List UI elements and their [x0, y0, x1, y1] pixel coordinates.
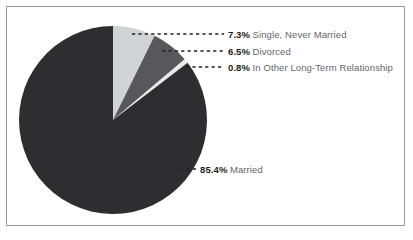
pie-label-in-other-long-term-relationship: 0.8%In Other Long-Term Relationship — [228, 62, 393, 73]
pie-label-text: Single, Never Married — [253, 29, 347, 40]
pie-chart-plot-area — [18, 25, 208, 215]
pie-label-married: 85.4%Married — [200, 164, 263, 175]
pie-label-percent: 85.4% — [200, 164, 227, 175]
pie-chart-figure: 7.3%Single, Never Married 6.5%Divorced 0… — [0, 0, 413, 240]
pie-label-text: In Other Long-Term Relationship — [253, 62, 393, 73]
pie-label-percent: 0.8% — [228, 62, 250, 73]
pie-label-divorced: 6.5%Divorced — [228, 46, 291, 57]
pie-label-text: Married — [230, 164, 263, 175]
pie-label-percent: 7.3% — [228, 29, 250, 40]
pie-svg — [18, 25, 208, 215]
pie-label-single-never-married: 7.3%Single, Never Married — [228, 29, 347, 40]
pie-label-text: Divorced — [253, 46, 291, 57]
pie-label-percent: 6.5% — [228, 46, 250, 57]
